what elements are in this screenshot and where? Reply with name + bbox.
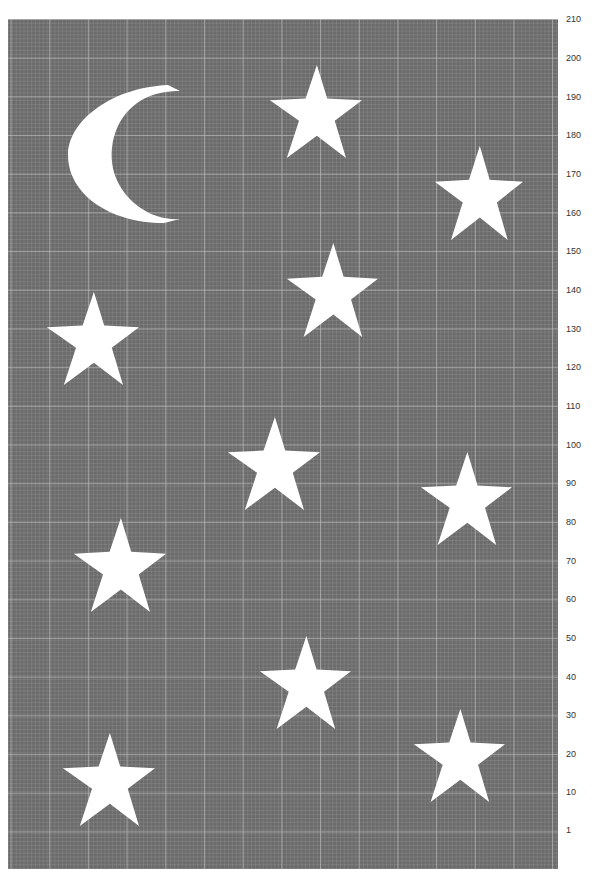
star-icon <box>72 518 166 612</box>
star-icon <box>285 243 378 337</box>
row-label: 50 <box>566 633 576 643</box>
crescent-moon-icon <box>68 83 180 225</box>
row-label: 100 <box>566 440 581 450</box>
row-label: 40 <box>566 672 576 682</box>
star-motif <box>258 636 351 729</box>
row-label: 120 <box>566 362 581 372</box>
row-label: 170 <box>566 169 581 179</box>
star-icon <box>258 636 351 729</box>
row-label: 130 <box>566 324 581 334</box>
row-label: 150 <box>566 246 581 256</box>
row-label: 70 <box>566 556 576 566</box>
star-motif <box>433 146 523 240</box>
row-label: 140 <box>566 285 581 295</box>
row-label: 210 <box>566 14 581 24</box>
row-label: 10 <box>566 787 576 797</box>
star-motif <box>268 65 362 158</box>
star-icon <box>412 709 505 802</box>
moon-motif <box>68 83 180 225</box>
star-icon <box>419 452 512 545</box>
row-label: 90 <box>566 478 576 488</box>
star-motif <box>419 452 512 545</box>
row-label: 200 <box>566 53 581 63</box>
star-motif <box>72 518 166 612</box>
row-label: 1 <box>566 825 571 835</box>
star-motif <box>226 417 320 510</box>
star-icon <box>433 146 523 240</box>
row-label: 60 <box>566 594 576 604</box>
row-label: 20 <box>566 749 576 759</box>
row-label: 80 <box>566 517 576 527</box>
row-label: 30 <box>566 710 576 720</box>
star-icon <box>268 65 362 158</box>
star-motif <box>61 733 155 826</box>
row-label: 190 <box>566 92 581 102</box>
star-icon <box>226 417 320 510</box>
row-label: 110 <box>566 401 580 411</box>
row-label: 180 <box>566 130 581 140</box>
star-icon <box>45 292 139 385</box>
star-motif <box>412 709 505 802</box>
star-motif <box>285 243 378 337</box>
star-motif <box>45 292 139 385</box>
row-label: 160 <box>566 208 581 218</box>
star-icon <box>61 733 155 826</box>
